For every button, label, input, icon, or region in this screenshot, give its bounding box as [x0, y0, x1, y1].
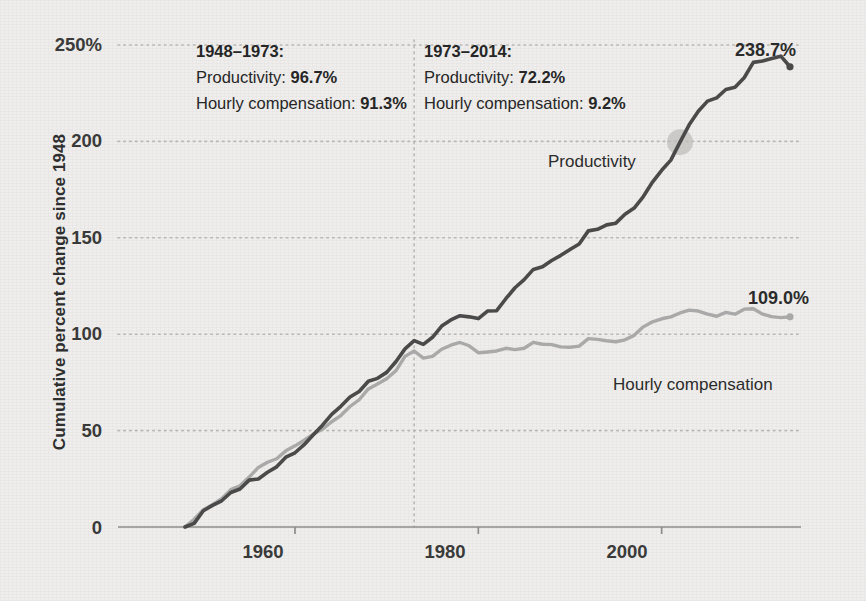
- annotation-2-productivity-label: Productivity:: [424, 68, 514, 86]
- annotation-1-compensation: Hourly compensation: 91.3%: [196, 90, 411, 116]
- series-endpoint-hourly-compensation: [786, 313, 793, 320]
- annotation-1-productivity-value: 96.7%: [290, 68, 337, 86]
- series-line-hourly-compensation: [185, 309, 790, 527]
- series-label-productivity: Productivity: [548, 152, 636, 172]
- annotation-2-productivity: Productivity: 72.2%: [424, 64, 639, 90]
- annotation-2-compensation: Hourly compensation: 9.2%: [424, 90, 724, 116]
- annotation-1-compensation-label: Hourly compensation:: [196, 94, 356, 112]
- series-label-hourly-compensation: Hourly compensation: [613, 375, 773, 395]
- endpoint-label-hourly-compensation: 109.0%: [748, 288, 809, 309]
- annotation-2-compensation-label: Hourly compensation:: [424, 94, 584, 112]
- endpoint-label-productivity: 238.7%: [735, 40, 796, 61]
- annotation-1-period: 1948–1973:: [196, 38, 411, 64]
- annotation-2-compensation-value: 9.2%: [588, 94, 626, 112]
- annotation-2-productivity-value: 72.2%: [518, 68, 565, 86]
- annotation-1-productivity-label: Productivity:: [196, 68, 286, 86]
- annotation-period-1973-2014: 1973–2014: Productivity: 72.2% Hourly co…: [424, 38, 639, 116]
- annotation-2-period: 1973–2014:: [424, 38, 639, 64]
- annotation-period-1948-1973: 1948–1973: Productivity: 96.7% Hourly co…: [196, 38, 411, 116]
- series-line-productivity: [185, 56, 790, 527]
- annotation-1-compensation-value: 91.3%: [360, 94, 407, 112]
- annotation-1-productivity: Productivity: 96.7%: [196, 64, 411, 90]
- series-endpoint-productivity: [786, 63, 793, 70]
- chart-page: Cumulative percent change since 1948 250…: [0, 0, 866, 601]
